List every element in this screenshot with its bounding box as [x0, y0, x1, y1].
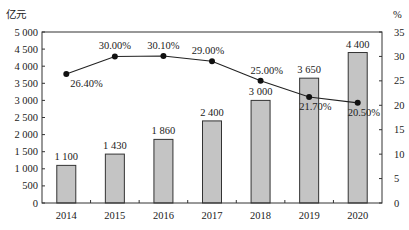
- y-tick-label: 1 000: [14, 163, 38, 174]
- line-point: [258, 78, 264, 84]
- line-value-label: 30.00%: [99, 40, 132, 51]
- bar: [348, 53, 367, 203]
- x-tick-label: 2014: [56, 210, 78, 221]
- y-tick-label: 2 500: [14, 112, 38, 123]
- line-point: [355, 100, 361, 106]
- y-tick-label: 4 000: [14, 61, 38, 72]
- line-point: [209, 58, 215, 64]
- bar-value-label: 1 100: [54, 151, 78, 162]
- right-axis-label: %: [393, 9, 402, 20]
- y2-tick-label: 5: [394, 173, 399, 184]
- y-tick-label: 4 500: [14, 44, 38, 55]
- chart: 1 1001 4301 8602 4003 0003 6504 400 2014…: [0, 0, 409, 230]
- y2-tick-label: 10: [394, 149, 405, 160]
- left-axis-label: 亿元: [6, 8, 27, 20]
- x-tick-label: 2015: [104, 210, 125, 221]
- x-tick-label: 2017: [202, 210, 223, 221]
- bar-value-label: 3 000: [249, 86, 273, 97]
- y2-tick-label: 20: [394, 100, 405, 111]
- line-value-label: 30.10%: [147, 40, 180, 51]
- y2-tick-label: 0: [394, 198, 399, 209]
- line-value-label: 21.70%: [299, 101, 332, 112]
- line-point: [160, 53, 166, 59]
- y-tick-label: 3 000: [14, 95, 38, 106]
- y-tick-label: 2 000: [14, 129, 38, 140]
- bar: [105, 154, 124, 203]
- y-tick-label: 500: [22, 180, 38, 191]
- y2-tick-label: 15: [394, 124, 405, 135]
- y2-tick-label: 25: [394, 75, 405, 86]
- line-value-label: 25.00%: [251, 65, 284, 76]
- y2-tick-label: 35: [394, 27, 405, 38]
- line-value-label: 29.00%: [192, 45, 225, 56]
- bar-value-label: 3 650: [297, 64, 321, 75]
- line-point: [112, 53, 118, 59]
- y-tick-label: 0: [33, 198, 38, 209]
- bar: [251, 100, 270, 203]
- bar-value-label: 1 430: [103, 140, 127, 151]
- line-point: [306, 94, 312, 100]
- bar: [57, 165, 76, 203]
- line-value-label: 26.40%: [70, 78, 103, 89]
- y-tick-label: 1 500: [14, 146, 38, 157]
- bar-value-label: 4 400: [346, 39, 370, 50]
- bar-value-label: 2 400: [200, 107, 224, 118]
- x-tick-label: 2016: [153, 210, 174, 221]
- x-tick-label: 2018: [250, 210, 271, 221]
- bar-value-label: 1 860: [152, 125, 176, 136]
- line-point: [63, 71, 69, 77]
- y-tick-label: 3 500: [14, 78, 38, 89]
- x-tick-label: 2019: [299, 210, 320, 221]
- bar: [154, 139, 173, 203]
- x-tick-label: 2020: [347, 210, 368, 221]
- line-value-label: 20.50%: [348, 107, 381, 118]
- y2-tick-label: 30: [394, 51, 405, 62]
- bar: [203, 121, 222, 203]
- y-tick-label: 5 000: [14, 27, 38, 38]
